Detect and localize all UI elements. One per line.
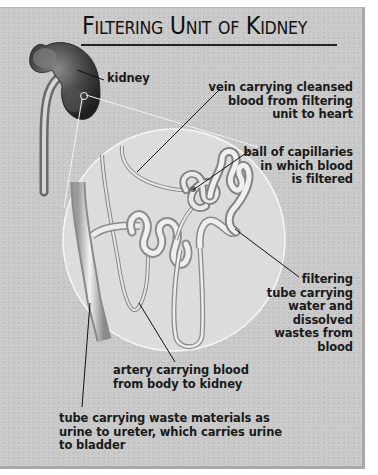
kidney-illustration <box>0 0 378 475</box>
leader-collecting-tube <box>82 303 90 407</box>
label-vein: vein carrying cleansed blood from filter… <box>209 81 353 122</box>
label-kidney: kidney <box>107 72 150 86</box>
kidney-organ <box>30 43 100 120</box>
label-artery: artery carrying blood from body to kidne… <box>113 364 249 391</box>
label-filtering-tube: filtering tube carrying water and dissol… <box>267 273 353 354</box>
label-collecting-tube: tube carrying waste materials as urine t… <box>59 412 282 453</box>
ureter <box>44 78 58 192</box>
label-capillaries: ball of capillaries in which blood is fi… <box>243 146 353 187</box>
